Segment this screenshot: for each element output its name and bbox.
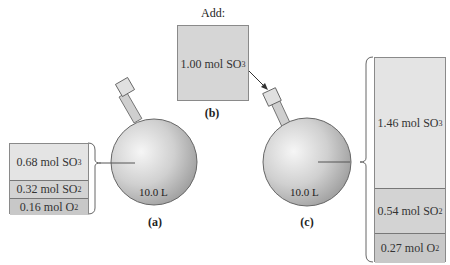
panel-b-add-box: 1.00 mol SO3 xyxy=(177,25,249,101)
panel-c-volume: 10.0 L xyxy=(290,186,319,198)
panel-a-label: (a) xyxy=(140,215,170,230)
panel-a-o2-cell: 0.16 mol O2 xyxy=(10,198,88,215)
panel-a-volume: 10.0 L xyxy=(139,186,168,198)
panel-b-heading: Add: xyxy=(201,6,225,21)
panel-a-mixture-box: 0.68 mol SO3 0.32 mol SO2 0.16 mol O2 xyxy=(9,143,89,214)
panel-c-so3-cell: 1.46 mol SO3 xyxy=(375,58,445,188)
panel-c-label: (c) xyxy=(292,215,322,230)
panel-c-o2-cell: 0.27 mol O2 xyxy=(375,233,445,263)
panel-a-so3-cell: 0.68 mol SO3 xyxy=(10,144,88,180)
panel-b-label: (b) xyxy=(197,106,227,121)
panel-b-so3-cell: 1.00 mol SO3 xyxy=(178,26,248,102)
panel-a-so2-cell: 0.32 mol SO2 xyxy=(10,180,88,198)
panel-c-mixture-box: 1.46 mol SO3 0.54 mol SO2 0.27 mol O2 xyxy=(374,57,446,262)
panel-c-so2-cell: 0.54 mol SO2 xyxy=(375,188,445,233)
